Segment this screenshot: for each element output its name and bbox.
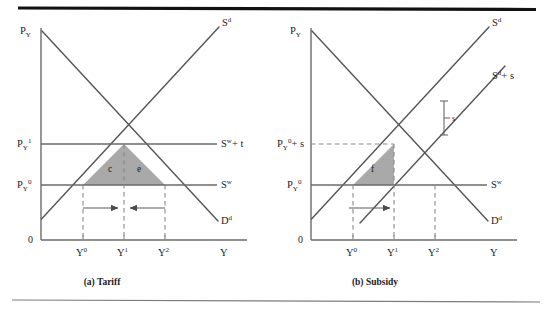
panel-b-label-domestic-demand: Dd — [491, 214, 503, 226]
panel-b-x-axis-label: Y — [490, 247, 498, 258]
subsidy-gap-label: s — [452, 114, 455, 123]
curve-domestic-demand-a — [42, 31, 218, 221]
panel-a-label-world-supply-plus-tariff: Sw+ t — [221, 137, 243, 149]
tariff-subsidy-figure: PY PY1 PY0 0 Sd Sw+ t Sw Dd c e — [0, 0, 551, 311]
label-region-e: e — [137, 164, 141, 174]
panel-a-price-label-p0: PY0 — [17, 178, 32, 193]
panel-a-label-domestic-demand: Dd — [221, 214, 233, 226]
curve-domestic-supply-b — [312, 27, 490, 219]
panel-b-origin-label: 0 — [298, 234, 303, 245]
bottom-rule — [12, 300, 540, 302]
panel-a-y-axis-label: PY — [20, 25, 31, 39]
curve-domestic-supply-a — [42, 27, 220, 219]
panel-a-origin-label: 0 — [28, 234, 33, 245]
panel-b-price-label-p0: PY0 — [287, 178, 302, 193]
panel-a-caption: (a) Tariff — [84, 277, 122, 288]
panel-tariff: PY PY1 PY0 0 Sd Sw+ t Sw Dd c e — [17, 16, 247, 288]
panel-a-tick-label-y2: Y2 — [158, 246, 170, 258]
panel-b-tick-label-y1: Y1 — [387, 246, 399, 258]
panel-b-price-label-p0-plus-s: PY0+ s — [277, 137, 304, 152]
panel-b-label-world-supply: Sw — [491, 178, 503, 190]
label-region-c: c — [108, 164, 112, 174]
panel-a-label-domestic-supply: Sd — [222, 16, 232, 28]
panel-b-y-axis-label: PY — [290, 25, 301, 39]
panel-b-tick-label-y0: Y0 — [346, 246, 358, 258]
figure-root: PY PY1 PY0 0 Sd Sw+ t Sw Dd c e — [0, 0, 551, 311]
panel-b-tick-label-y2: Y2 — [428, 246, 440, 258]
panel-subsidy: PY PY0+ s PY0 0 Sd Sd+ s Sw Dd f — [277, 16, 517, 288]
panel-a-x-axis-label: Y — [220, 247, 228, 258]
curve-domestic-demand-b — [312, 31, 488, 221]
panel-b-label-domestic-supply-plus-subsidy: Sd+ s — [492, 69, 514, 81]
panel-b-caption: (b) Subsidy — [352, 277, 398, 288]
top-rule — [18, 8, 536, 10]
panel-a-label-world-supply: Sw — [221, 178, 233, 190]
panel-b-label-domestic-supply: Sd — [492, 16, 502, 28]
panel-a-tick-label-y0: Y0 — [76, 246, 88, 258]
panel-a-tick-label-y1: Y1 — [117, 246, 129, 258]
deadweight-region-c — [83, 144, 124, 185]
deadweight-region-e — [124, 144, 165, 185]
curve-domestic-supply-plus-subsidy — [360, 66, 505, 223]
panel-a-price-label-p1: PY1 — [17, 137, 32, 152]
